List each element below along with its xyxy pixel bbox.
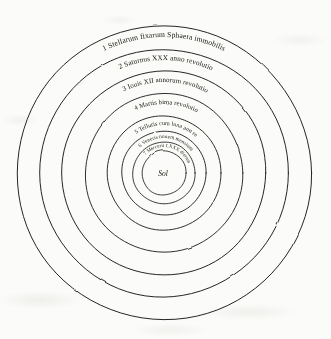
- orbit-label-3: 3 Iouis XII annorum revolutio: [121, 76, 210, 94]
- sun-center-label: Sol: [158, 169, 168, 178]
- orbit-label-4: 4 Martis bima revolutio: [133, 98, 200, 113]
- copernicus-orbit-diagram: 1 Stellarum fixarum Sphaera immobilis2 S…: [0, 0, 331, 339]
- orbit-label-textpath-4: 4 Martis bima revolutio: [133, 98, 200, 113]
- orbit-label-textpath-2: 2 Saturnus XXX anno revolutio: [118, 54, 215, 73]
- diagram-page: 1 Stellarum fixarum Sphaera immobilis2 S…: [0, 0, 331, 339]
- orbit-label-2: 2 Saturnus XXX anno revolutio: [118, 54, 215, 73]
- orbit-label-textpath-3: 3 Iouis XII annorum revolutio: [121, 76, 210, 94]
